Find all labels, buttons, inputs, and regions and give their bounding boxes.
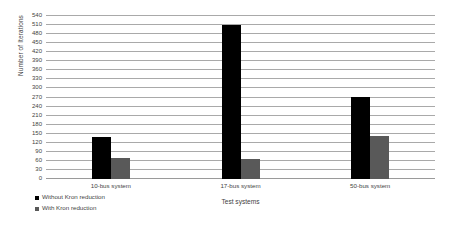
legend-item[interactable]: With Kron reduction: [35, 205, 105, 212]
x-axis-tick-label: 17-bus system: [220, 182, 260, 189]
legend-swatch-icon: [35, 207, 39, 211]
chart-legend: Without Kron reductionWith Kron reductio…: [35, 194, 105, 216]
y-axis-tick-label: 270: [32, 94, 42, 100]
y-axis-tick-label: 60: [35, 157, 42, 163]
y-axis-tick-label: 0: [39, 175, 42, 181]
y-axis-tick-label: 90: [35, 148, 42, 154]
legend-label: Without Kron reduction: [42, 194, 105, 200]
bar: [92, 137, 111, 179]
y-axis-tick-label: 210: [32, 112, 42, 118]
bar: [241, 159, 260, 179]
legend-label: With Kron reduction: [42, 205, 96, 211]
legend-swatch-icon: [35, 196, 39, 200]
y-axis-tick-label: 450: [32, 39, 42, 45]
y-axis-tick-label: 360: [32, 66, 42, 72]
y-axis-tick-label: 30: [35, 166, 42, 172]
legend-item[interactable]: Without Kron reduction: [35, 194, 105, 201]
y-axis-title: Number of Iterations: [17, 0, 24, 116]
y-axis-tick-label: 510: [32, 21, 42, 27]
y-axis-tick-label: 540: [32, 12, 42, 18]
bar: [351, 97, 370, 179]
bar: [222, 25, 241, 179]
y-axis-tick-label: 180: [32, 121, 42, 127]
y-axis-tick-label: 390: [32, 57, 42, 63]
x-axis-tick-label: 10-bus system: [91, 182, 131, 189]
y-axis-tick-label: 420: [32, 48, 42, 54]
bar: [370, 136, 389, 179]
bar: [111, 158, 130, 179]
y-axis-tick-label: 300: [32, 84, 42, 90]
y-axis-tick-label: 120: [32, 139, 42, 145]
x-axis-tick-label: 50-bus system: [350, 182, 390, 189]
bar-chart: Number of Iterations 0306090120150180210…: [0, 0, 449, 227]
y-axis-tick-label: 150: [32, 130, 42, 136]
y-axis-tick-label: 480: [32, 30, 42, 36]
y-axis-tick-label: 330: [32, 75, 42, 81]
y-axis-tick-label: 240: [32, 103, 42, 109]
bars-layer: [46, 16, 435, 179]
plot-area: 0306090120150180210240270300330360390420…: [46, 16, 435, 179]
